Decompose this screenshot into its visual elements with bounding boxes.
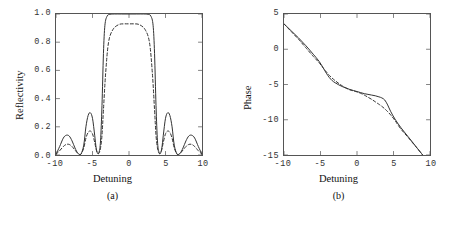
x-axis-title-b: Detuning xyxy=(226,173,451,184)
x-tick-label: 5 xyxy=(391,159,397,169)
curves-b xyxy=(284,14,430,155)
x-tick-label: 0 xyxy=(126,159,132,169)
panel-a: 0.00.20.40.60.81.0 -10-50510 Detuning Re… xyxy=(0,0,225,226)
panel-caption-a: (a) xyxy=(0,190,225,201)
x-tick-label: 5 xyxy=(163,159,169,169)
panel-caption-b: (b) xyxy=(226,190,451,201)
y-tick-label: 0.2 xyxy=(0,122,51,132)
plot-area-a xyxy=(55,13,203,156)
y-tick-label: 5 xyxy=(226,8,279,18)
y-tick-label: 0.8 xyxy=(0,37,51,47)
y-tick-label: -15 xyxy=(226,151,279,161)
x-tick-label: -5 xyxy=(86,159,97,169)
series-dashed xyxy=(284,24,423,155)
figure-container: 0.00.20.40.60.81.0 -10-50510 Detuning Re… xyxy=(0,0,451,226)
panel-b: -15-10-505 -10-50510 Detuning Phase (b) xyxy=(226,0,451,226)
y-tick-label: 0.0 xyxy=(0,151,51,161)
x-axis-title-a: Detuning xyxy=(0,173,225,184)
y-tick-label: 0 xyxy=(226,44,279,54)
x-tick-label: 0 xyxy=(354,159,360,169)
x-tick-label: 10 xyxy=(425,159,436,169)
x-tick-label: -10 xyxy=(275,159,292,169)
plot-area-b xyxy=(283,13,431,156)
series-solid xyxy=(56,14,202,155)
x-tick-label: 10 xyxy=(197,159,208,169)
y-axis-title-b: Phase xyxy=(242,86,253,111)
y-tick-label: 1.0 xyxy=(0,8,51,18)
y-tick-label: 0.4 xyxy=(0,94,51,104)
curves-a xyxy=(56,14,202,155)
y-axis-title-a: Reflectivity xyxy=(14,70,25,120)
series-dashed xyxy=(56,24,202,155)
x-tick-label: -10 xyxy=(47,159,64,169)
y-tick-label: -10 xyxy=(226,115,279,125)
y-tick-label: 0.6 xyxy=(0,65,51,75)
x-tick-label: -5 xyxy=(314,159,325,169)
series-solid xyxy=(284,24,423,155)
